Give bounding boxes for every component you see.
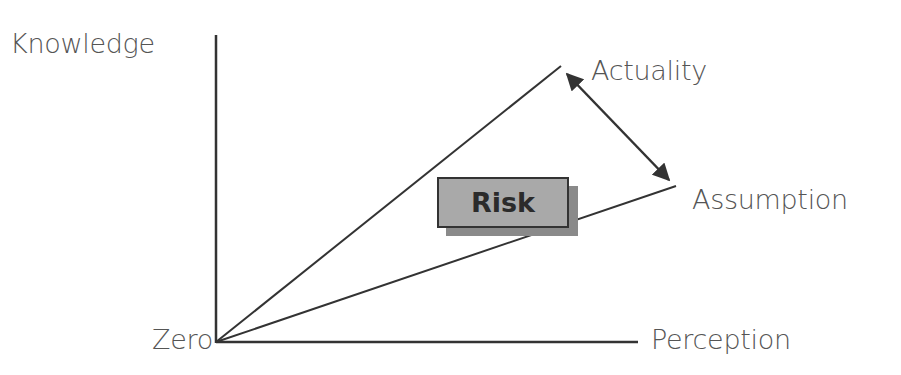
risk-box: Risk	[437, 177, 569, 228]
assumption-label: Assumption	[692, 184, 848, 215]
gap-double-arrow	[567, 74, 669, 180]
x-axis-label: Perception	[651, 324, 791, 355]
origin-label: Zero	[152, 324, 213, 355]
risk-label: Risk	[471, 187, 535, 218]
actuality-label: Actuality	[591, 55, 707, 86]
y-axis-label: Knowledge	[10, 28, 155, 59]
